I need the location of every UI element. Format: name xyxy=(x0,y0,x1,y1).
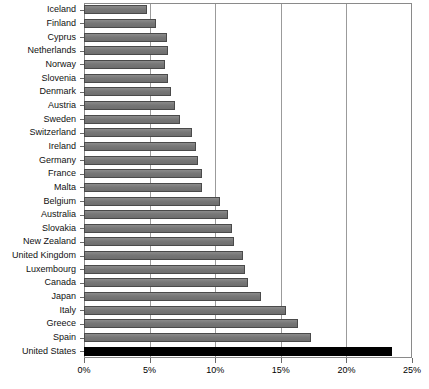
value-label-15: 15% xyxy=(272,364,290,376)
bar-row xyxy=(84,140,412,154)
category-label-japan: Japan xyxy=(0,290,80,304)
bar-row xyxy=(84,181,412,195)
value-tick-15 xyxy=(281,358,282,363)
bar-belgium xyxy=(84,197,220,206)
bar-switzerland xyxy=(84,128,192,137)
category-label-ireland: Ireland xyxy=(0,140,80,154)
category-label-denmark: Denmark xyxy=(0,85,80,99)
bar-row xyxy=(84,317,412,331)
value-label-10: 10% xyxy=(206,364,224,376)
bar-series xyxy=(84,3,412,358)
value-tick-0 xyxy=(84,358,85,363)
bar-row xyxy=(84,249,412,263)
bar-new-zealand xyxy=(84,237,234,246)
bar-row xyxy=(84,222,412,236)
value-tick-25 xyxy=(412,358,413,363)
bar-cyprus xyxy=(84,33,167,42)
bar-denmark xyxy=(84,87,171,96)
bar-greece xyxy=(84,319,298,328)
bar-sweden xyxy=(84,115,180,124)
bar-row xyxy=(84,17,412,31)
bar-row xyxy=(84,44,412,58)
category-label-sweden: Sweden xyxy=(0,112,80,126)
bar-row xyxy=(84,276,412,290)
bar-united-states xyxy=(84,347,392,356)
bar-row xyxy=(84,85,412,99)
bar-row xyxy=(84,303,412,317)
category-label-united-kingdom: United Kingdom xyxy=(0,249,80,263)
bar-ireland xyxy=(84,142,196,151)
category-label-spain: Spain xyxy=(0,331,80,345)
bar-canada xyxy=(84,278,248,287)
bar-row xyxy=(84,3,412,17)
category-label-greece: Greece xyxy=(0,317,80,331)
category-label-slovakia: Slovakia xyxy=(0,222,80,236)
bar-row xyxy=(84,344,412,358)
bar-netherlands xyxy=(84,46,168,55)
category-label-austria: Austria xyxy=(0,99,80,113)
bar-row xyxy=(84,167,412,181)
category-label-cyprus: Cyprus xyxy=(0,30,80,44)
category-label-slovenia: Slovenia xyxy=(0,71,80,85)
value-tick-10 xyxy=(215,358,216,363)
bar-row xyxy=(84,290,412,304)
bar-italy xyxy=(84,306,286,315)
bar-united-kingdom xyxy=(84,251,243,260)
bar-spain xyxy=(84,333,311,342)
bar-france xyxy=(84,169,202,178)
category-label-finland: Finland xyxy=(0,17,80,31)
category-label-united-states: United States xyxy=(0,344,80,358)
bar-germany xyxy=(84,156,198,165)
bar-row xyxy=(84,99,412,113)
category-label-italy: Italy xyxy=(0,303,80,317)
bar-slovakia xyxy=(84,224,232,233)
bar-malta xyxy=(84,183,202,192)
category-label-netherlands: Netherlands xyxy=(0,44,80,58)
bar-row xyxy=(84,194,412,208)
bar-row xyxy=(84,112,412,126)
bar-row xyxy=(84,126,412,140)
bar-row xyxy=(84,262,412,276)
value-axis-labels: 0%5%10%15%20%25% xyxy=(0,364,429,380)
bar-australia xyxy=(84,210,228,219)
category-label-australia: Australia xyxy=(0,208,80,222)
category-label-malta: Malta xyxy=(0,181,80,195)
value-label-20: 20% xyxy=(337,364,355,376)
bar-row xyxy=(84,71,412,85)
category-label-new-zealand: New Zealand xyxy=(0,235,80,249)
bar-row xyxy=(84,30,412,44)
bar-row xyxy=(84,58,412,72)
bar-slovenia xyxy=(84,74,168,83)
value-label-0: 0% xyxy=(77,364,90,376)
category-label-switzerland: Switzerland xyxy=(0,126,80,140)
bar-chart: IcelandFinlandCyprusNetherlandsNorwaySlo… xyxy=(0,0,429,389)
category-label-norway: Norway xyxy=(0,58,80,72)
bar-finland xyxy=(84,19,156,28)
category-label-luxembourg: Luxembourg xyxy=(0,262,80,276)
category-axis-labels: IcelandFinlandCyprusNetherlandsNorwaySlo… xyxy=(0,3,80,358)
category-label-germany: Germany xyxy=(0,153,80,167)
value-tick-20 xyxy=(346,358,347,363)
bar-japan xyxy=(84,292,261,301)
bar-norway xyxy=(84,60,165,69)
category-label-canada: Canada xyxy=(0,276,80,290)
bar-row xyxy=(84,153,412,167)
value-label-5: 5% xyxy=(143,364,156,376)
value-tick-5 xyxy=(150,358,151,363)
bar-iceland xyxy=(84,5,147,14)
bar-row xyxy=(84,235,412,249)
bar-luxembourg xyxy=(84,265,245,274)
bar-row xyxy=(84,208,412,222)
bar-austria xyxy=(84,101,175,110)
category-label-belgium: Belgium xyxy=(0,194,80,208)
value-label-25: 25% xyxy=(403,364,421,376)
category-label-france: France xyxy=(0,167,80,181)
bar-row xyxy=(84,331,412,345)
category-label-iceland: Iceland xyxy=(0,3,80,17)
